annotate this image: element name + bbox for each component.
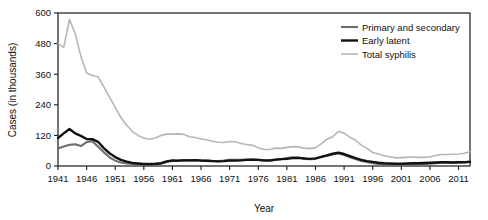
x-tick-label: 2001 [391, 173, 412, 184]
x-tick-label: 1966 [190, 173, 211, 184]
x-tick-label: 1976 [248, 173, 269, 184]
x-tick-label: 1986 [305, 173, 326, 184]
y-axis-title: Cases (in thousands) [7, 43, 18, 138]
chart-legend: Primary and secondaryEarly latentTotal s… [341, 22, 460, 60]
x-tick-label: 1996 [362, 173, 383, 184]
legend-label-total-syphilis: Total syphilis [362, 49, 416, 60]
syphilis-cases-line-chart: 0120240360480600 19411946195119561961196… [0, 0, 488, 220]
y-tick-label: 120 [35, 130, 51, 141]
x-tick-label: 1941 [47, 173, 68, 184]
y-tick-label: 480 [35, 38, 51, 49]
y-axis-ticks: 0120240360480600 [35, 7, 58, 171]
chart-svg: 0120240360480600 19411946195119561961196… [0, 0, 488, 220]
x-tick-label: 1946 [76, 173, 97, 184]
x-tick-label: 2011 [448, 173, 468, 184]
x-tick-label: 1981 [276, 173, 297, 184]
x-tick-label: 1971 [219, 173, 240, 184]
y-tick-label: 240 [35, 99, 51, 110]
y-tick-label: 360 [35, 69, 51, 80]
series-line-early-latent [58, 129, 470, 164]
x-tick-label: 1991 [334, 173, 355, 184]
x-tick-label: 1951 [105, 173, 126, 184]
x-tick-label: 1961 [162, 173, 183, 184]
x-tick-label: 1956 [133, 173, 154, 184]
legend-label-early-latent: Early latent [362, 35, 410, 46]
x-axis-title: Year [254, 203, 275, 214]
legend-label-primary-and-secondary: Primary and secondary [362, 22, 460, 33]
y-tick-label: 0 [46, 160, 51, 171]
x-tick-label: 2006 [419, 173, 440, 184]
y-tick-label: 600 [35, 7, 51, 18]
x-axis-ticks: 1941194619511956196119661971197619811986… [47, 166, 468, 184]
